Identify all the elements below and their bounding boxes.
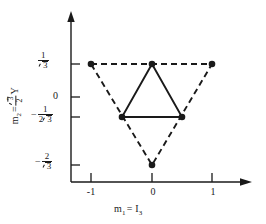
fraction-2-over-sqrt3: 2 3: [42, 152, 53, 171]
inner-solid-triangle: [122, 64, 182, 117]
y-axis-ticks: [71, 64, 80, 165]
x-tick-label-one: 1: [204, 186, 222, 197]
weight-point-mid-left: [119, 114, 126, 121]
y-title-symbol: m: [9, 116, 20, 124]
y-tick-label-zero: 0: [53, 91, 58, 101]
x-axis-title: m1 = I3: [114, 203, 143, 217]
y-tick-label-neg-2-over-sqrt3: − 2 3: [35, 152, 52, 171]
y-title-subscript: 2: [15, 113, 23, 117]
fraction-denominator: 3: [38, 61, 49, 70]
x-title-equals-I: = I: [127, 203, 139, 214]
axis-lines: [67, 11, 252, 186]
x-axis-ticks: [91, 173, 212, 182]
x-title-I-subscript: 3: [139, 209, 143, 217]
radical-sign: 3: [43, 162, 52, 171]
x-tick-label-zero: 0: [144, 186, 162, 197]
y-title-equals: =: [9, 106, 20, 112]
x-title-subscript: 1: [122, 209, 126, 217]
weight-point-top-center: [149, 61, 156, 68]
weight-diagram-figure: 1 3 0 − 1 23 − 2 3 -1 0 1 m1 = I3 m2 =32…: [0, 0, 266, 224]
weight-points: [88, 61, 216, 169]
y-title-Y-symbol: Y: [9, 87, 20, 94]
fraction-numerator: 3: [7, 95, 16, 105]
weight-point-top-left: [88, 61, 95, 68]
weight-point-mid-right: [179, 114, 186, 121]
minus-sign: −: [31, 110, 37, 120]
x-title-symbol: m: [114, 203, 122, 214]
minus-sign: −: [35, 157, 41, 167]
x-tick-label-minus-one: -1: [82, 186, 100, 197]
fraction-denominator: 23: [38, 115, 53, 124]
radical-sign: 3: [39, 61, 48, 70]
y-axis-arrowhead: [67, 11, 74, 22]
weight-point-bottom: [149, 162, 156, 169]
outer-dashed-triangle: [91, 64, 212, 165]
radical-sign: 3: [43, 115, 52, 124]
fraction-denominator: 3: [42, 162, 53, 171]
radicand: 3: [6, 96, 15, 100]
radical-sign: 3: [7, 96, 15, 104]
fraction-1-over-sqrt3: 1 3: [38, 51, 49, 70]
y-axis-title: m2 =32Y: [7, 73, 24, 139]
fraction-denominator: 2: [17, 95, 25, 105]
y-tick-label-1-over-sqrt3: 1 3: [38, 51, 49, 70]
x-axis-arrowhead: [240, 178, 252, 186]
y-tick-label-neg-1-over-2sqrt3: − 1 23: [31, 105, 53, 124]
weight-point-top-right: [209, 61, 216, 68]
y-title-fraction: 32: [7, 95, 24, 105]
fraction-1-over-2sqrt3: 1 23: [38, 105, 53, 124]
radicand: 3: [43, 60, 48, 70]
